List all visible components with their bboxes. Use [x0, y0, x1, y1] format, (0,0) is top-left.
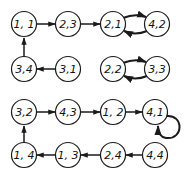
node-2-4: 2,4	[101, 143, 126, 168]
node-label: 3,4	[15, 63, 33, 76]
node-label: 3,3	[148, 63, 166, 76]
node-label: 4,4	[146, 149, 164, 162]
functional-graph-diagram: 1, 1 2,3 2,1 4,2 3,4 3,1 2,2 3,3	[0, 0, 192, 178]
node-label: 2,2	[104, 63, 122, 76]
node-label: 2,3	[59, 18, 77, 31]
node-3-3: 3,3	[145, 57, 170, 82]
node-label: 4,1	[146, 106, 164, 119]
node-4-2: 4,2	[145, 12, 170, 37]
node-4-3: 4,3	[56, 100, 81, 125]
node-2-2: 2,2	[101, 57, 126, 82]
node-3-1: 3,1	[56, 57, 81, 82]
node-4-4: 4,4	[143, 143, 168, 168]
node-label: 4,3	[59, 106, 77, 119]
edge-33-to-22	[124, 76, 147, 79]
edge-21-to-42	[123, 15, 146, 18]
node-4-1: 4,1	[143, 100, 168, 125]
node-2-3: 2,3	[56, 12, 81, 37]
nodes: 1, 1 2,3 2,1 4,2 3,4 3,1 2,2 3,3	[12, 12, 170, 168]
node-label: 1, 1	[14, 18, 35, 31]
node-label: 3,1	[59, 63, 77, 76]
node-1-4: 1, 4	[12, 143, 37, 168]
node-3-4: 3,4	[12, 57, 37, 82]
node-3-2: 3,2	[12, 100, 37, 125]
edge-42-to-21	[124, 31, 147, 34]
node-label: 1, 3	[58, 149, 79, 162]
node-label: 4,2	[148, 18, 166, 31]
edge-22-to-33	[123, 60, 146, 63]
node-label: 1, 2	[103, 106, 124, 119]
node-label: 2,4	[104, 149, 122, 162]
node-1-2: 1, 2	[101, 100, 126, 125]
node-1-1: 1, 1	[12, 12, 37, 37]
node-2-1: 2,1	[101, 12, 126, 37]
node-label: 1, 4	[14, 149, 35, 162]
node-label: 3,2	[15, 106, 33, 119]
node-1-3: 1, 3	[56, 143, 81, 168]
node-label: 2,1	[104, 18, 122, 31]
